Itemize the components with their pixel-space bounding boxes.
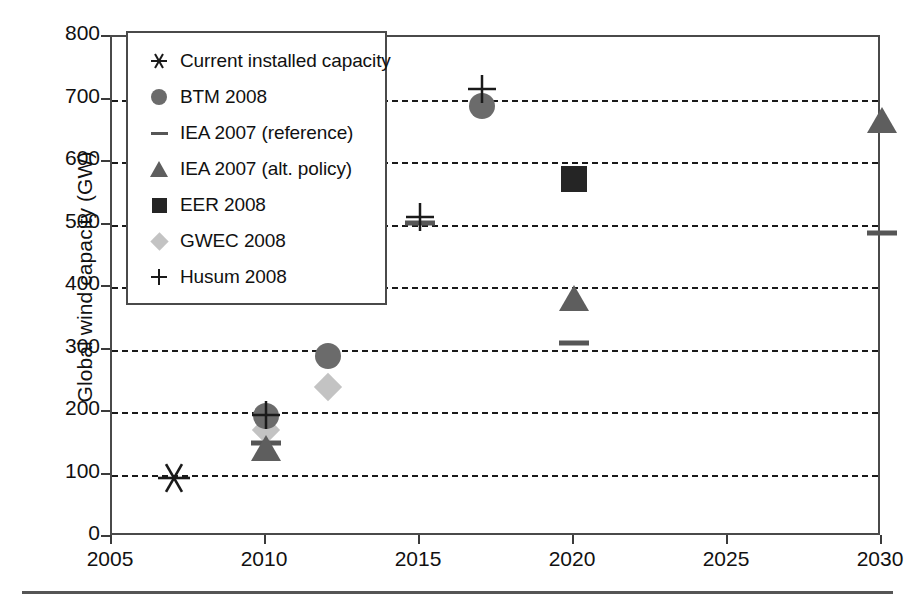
footer-rule: [22, 591, 893, 594]
legend-item-label: Current installed capacity: [180, 50, 391, 72]
data-point-dash: [867, 230, 897, 235]
legend-item[interactable]: Current installed capacity: [128, 43, 385, 79]
gridline: [112, 350, 878, 352]
data-point-plus: [405, 202, 435, 232]
x-tick-label: 2025: [681, 547, 771, 571]
x-tick-mark: [572, 535, 574, 544]
legend-item-label: IEA 2007 (alt. policy): [180, 158, 352, 180]
legend-plus-icon: [138, 262, 180, 292]
legend-item-label: IEA 2007 (reference): [180, 122, 353, 144]
legend-square-icon: [138, 190, 180, 220]
data-point-star: [157, 461, 191, 495]
x-tick-label: 2010: [219, 547, 309, 571]
data-point-diamond: [318, 377, 338, 397]
x-tick-mark: [726, 535, 728, 544]
y-tick-mark: [101, 348, 110, 350]
y-tick-label: 100: [30, 459, 100, 483]
legend-item-label: EER 2008: [180, 194, 266, 216]
x-tick-mark: [110, 535, 112, 544]
data-point-triangle: [867, 107, 897, 133]
y-tick-mark: [101, 35, 110, 37]
legend-triangle-icon: [138, 154, 180, 184]
figure: Global wind capacity (GW) 01002003004005…: [0, 0, 909, 610]
gridline: [112, 475, 878, 477]
x-tick-label: 2030: [835, 547, 909, 571]
data-point-dash: [559, 341, 589, 346]
legend-item-label: GWEC 2008: [180, 230, 286, 252]
legend-circle-icon: [138, 82, 180, 112]
legend-item-label: Husum 2008: [180, 266, 287, 288]
x-tick-label: 2020: [527, 547, 617, 571]
x-tick-mark: [880, 535, 882, 544]
y-tick-label: 200: [30, 396, 100, 420]
y-tick-label: 800: [30, 21, 100, 45]
y-tick-mark: [101, 223, 110, 225]
legend-item[interactable]: IEA 2007 (alt. policy): [128, 151, 385, 187]
y-tick-mark: [101, 535, 110, 537]
legend-dash-icon: [138, 118, 180, 148]
gridline: [112, 412, 878, 414]
y-tick-label: 700: [30, 84, 100, 108]
y-tick-label: 500: [30, 209, 100, 233]
y-tick-mark: [101, 473, 110, 475]
y-tick-label: 600: [30, 146, 100, 170]
y-tick-label: 300: [30, 334, 100, 358]
y-tick-mark: [101, 160, 110, 162]
data-point-plus: [251, 400, 281, 430]
legend-item[interactable]: GWEC 2008: [128, 223, 385, 259]
y-tick-label: 0: [30, 521, 100, 545]
x-tick-mark: [418, 535, 420, 544]
x-tick-label: 2005: [65, 547, 155, 571]
x-tick-mark: [264, 535, 266, 544]
y-tick-mark: [101, 410, 110, 412]
data-point-circle: [315, 343, 341, 369]
legend-star-icon: [138, 46, 180, 76]
data-point-square: [561, 166, 587, 192]
legend-diamond-icon: [138, 226, 180, 256]
legend-item[interactable]: Husum 2008: [128, 259, 385, 295]
legend-item[interactable]: EER 2008: [128, 187, 385, 223]
legend-item-label: BTM 2008: [180, 86, 267, 108]
data-point-plus: [467, 74, 497, 104]
x-tick-label: 2015: [373, 547, 463, 571]
legend: Current installed capacityBTM 2008IEA 20…: [126, 31, 387, 305]
data-point-triangle: [559, 285, 589, 311]
y-tick-mark: [101, 285, 110, 287]
legend-item[interactable]: IEA 2007 (reference): [128, 115, 385, 151]
y-tick-mark: [101, 98, 110, 100]
legend-item[interactable]: BTM 2008: [128, 79, 385, 115]
data-point-triangle: [251, 435, 281, 461]
y-tick-label: 400: [30, 271, 100, 295]
